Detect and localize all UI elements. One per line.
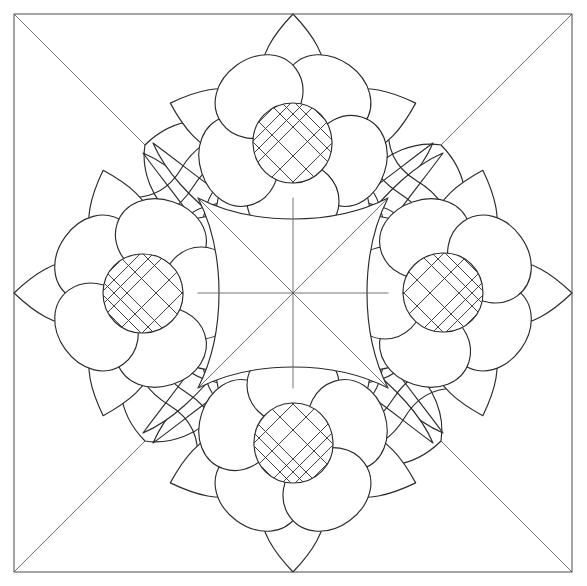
artboard <box>0 0 587 586</box>
mandala-line-drawing <box>0 0 587 586</box>
radiating-lines-overlay <box>198 198 388 388</box>
